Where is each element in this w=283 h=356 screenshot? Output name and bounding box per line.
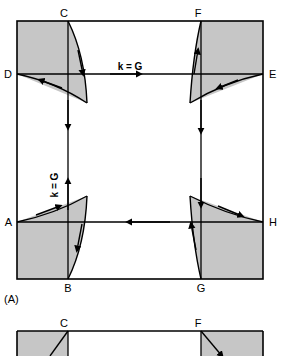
vertex-label-h: H	[269, 216, 277, 228]
vertex-label-g: G	[197, 282, 206, 294]
figure-container: C F D E A H B G k = G k = G (A)	[0, 0, 283, 356]
panel-b-vertex-label-c: C	[60, 317, 68, 329]
panel-a: C F D E A H B G k = G k = G (A)	[4, 7, 277, 305]
shaded-region-top-left	[17, 21, 87, 103]
panel-a-caption: (A)	[4, 293, 19, 305]
vertex-label-a: A	[5, 216, 13, 228]
vertex-label-d: D	[4, 68, 12, 80]
shaded-regions-panel-a	[17, 21, 263, 279]
vertex-label-c: C	[60, 7, 68, 19]
k-equals-g-horizontal-label: k = G	[118, 61, 143, 72]
vertex-label-f: F	[195, 7, 202, 19]
brillouin-zone-figure: C F D E A H B G k = G k = G (A)	[0, 0, 283, 356]
vertex-label-e: E	[269, 68, 276, 80]
vertex-label-b: B	[64, 282, 71, 294]
shaded-region-panel-b-top-right	[201, 331, 263, 356]
panel-b: C F	[17, 317, 263, 356]
shaded-region-panel-b-top-left	[17, 331, 68, 356]
k-equals-g-vertical-label: k = G	[49, 172, 60, 197]
panel-b-vertex-label-f: F	[195, 317, 202, 329]
